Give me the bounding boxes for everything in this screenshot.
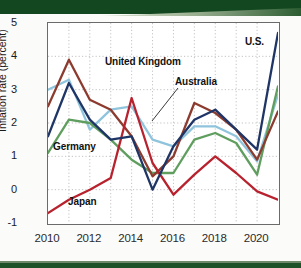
series-label-germany: Germany [53, 141, 96, 152]
y-tick-label: -1 [0, 216, 17, 228]
band-bottom-rule [0, 261, 301, 263]
x-tick-label: 2012 [76, 232, 101, 244]
page-bottom-green-band [0, 261, 301, 268]
y-tick-label: 1 [0, 149, 17, 161]
y-tick-label: 4 [0, 49, 17, 61]
series-svg [48, 23, 278, 223]
y-tick-label: 2 [0, 116, 17, 128]
series-line-germany [48, 86, 278, 174]
inflation-line-chart: Inflation rate (percent) 543210-1 201020… [0, 14, 301, 261]
series-line-united-kingdom [48, 60, 278, 177]
y-tick-label: 0 [0, 183, 17, 195]
plot-area [47, 22, 280, 225]
series-label-us: U.S. [245, 36, 264, 47]
x-tick-label: 2016 [160, 232, 185, 244]
figure-page: Inflation rate (percent) 543210-1 201020… [0, 0, 301, 268]
series-label-japan: Japan [68, 196, 96, 207]
x-tick-label: 2018 [202, 232, 227, 244]
page-top-green-band [0, 0, 301, 14]
series-label-united-kingdom: United Kingdom [105, 56, 181, 67]
series-label-australia: Australia [175, 76, 217, 87]
y-tick-label: 3 [0, 83, 17, 95]
x-tick-label: 2010 [35, 232, 60, 244]
x-tick-label: 2020 [244, 232, 269, 244]
x-tick-label: 2014 [118, 232, 143, 244]
y-tick-label: 5 [0, 16, 17, 28]
